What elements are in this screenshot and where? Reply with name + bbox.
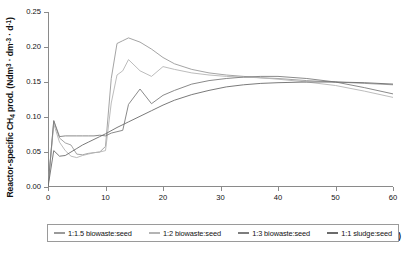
legend-line-icon	[238, 232, 249, 233]
x-tick-label: 20	[159, 193, 167, 202]
legend-line-icon	[54, 232, 65, 233]
chart-legend: 1:1.5 biowaste:seed1:2 biowaste:seed1:3 …	[47, 224, 399, 242]
x-tick: 20	[163, 187, 164, 191]
x-tick: 0	[48, 187, 49, 191]
plot-area: 0.000.050.100.150.200.25 0102030405060	[48, 12, 393, 187]
legend-line-icon	[327, 232, 338, 233]
legend-label: 1:1.5 biowaste:seed	[68, 229, 132, 238]
x-tick-label: 40	[274, 193, 282, 202]
legend-item-1: 1:2 biowaste:seed	[149, 229, 221, 238]
y-axis-title-container: Reactor-specific CH4 prod. (Ndm3 · dm-3 …	[0, 0, 20, 215]
legend-label: 1:2 biowaste:seed	[163, 229, 221, 238]
series-line-3	[48, 82, 393, 187]
y-tick-label: 0.05	[26, 147, 41, 156]
series-line-2	[48, 76, 393, 187]
x-tick: 40	[278, 187, 279, 191]
series-line-0	[48, 38, 393, 187]
x-tick-label: 0	[46, 193, 50, 202]
x-tick-label: 50	[331, 193, 339, 202]
x-tick-label: 30	[216, 193, 224, 202]
x-tick: 10	[106, 187, 107, 191]
legend-line-icon	[149, 232, 160, 233]
y-tick-label: 0.25	[26, 7, 41, 16]
x-tick-label: 60	[389, 193, 397, 202]
y-axis-title: Reactor-specific CH4 prod. (Ndm3 · dm-3 …	[5, 17, 16, 197]
legend-item-2: 1:3 biowaste:seed	[238, 229, 310, 238]
y-tick-label: 0.10	[26, 112, 41, 121]
series-lines	[48, 12, 393, 187]
y-tick-label: 0.20	[26, 42, 41, 51]
y-tick-label: 0.00	[26, 182, 41, 191]
y-tick-label: 0.15	[26, 77, 41, 86]
x-tick: 60	[393, 187, 394, 191]
legend-item-3: 1:1 sludge:seed	[327, 229, 392, 238]
x-tick-label: 10	[101, 193, 109, 202]
legend-item-0: 1:1.5 biowaste:seed	[54, 229, 132, 238]
chart-figure: Reactor-specific CH4 prod. (Ndm3 · dm-3 …	[0, 0, 407, 253]
x-tick: 30	[221, 187, 222, 191]
x-tick: 50	[336, 187, 337, 191]
series-line-1	[48, 60, 393, 187]
legend-label: 1:3 biowaste:seed	[252, 229, 310, 238]
legend-label: 1:1 sludge:seed	[341, 229, 392, 238]
